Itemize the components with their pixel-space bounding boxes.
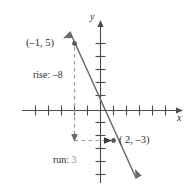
graph-canvas xyxy=(0,0,189,193)
y-axis-label: y xyxy=(90,12,94,22)
rise-annotation-label: rise: xyxy=(33,69,50,80)
rise-annotation-value: –8 xyxy=(53,69,63,80)
run-dashed-arrow xyxy=(75,137,113,144)
rise-dashed-arrow xyxy=(71,47,78,142)
run-annotation-label: run: xyxy=(53,154,69,165)
point-marker-upper xyxy=(72,41,77,46)
x-axis xyxy=(22,107,183,113)
coordinate-plane-figure: y x (–1, 5) ( 2, –3) rise: –8 run: 3 xyxy=(0,0,189,193)
run-annotation-value: 3 xyxy=(72,154,77,165)
point-label-upper: (–1, 5) xyxy=(26,38,54,49)
rise-annotation: rise: –8 xyxy=(33,70,63,80)
point-marker-lower xyxy=(111,138,116,143)
point-label-lower: ( 2, –3) xyxy=(119,135,150,146)
y-axis xyxy=(97,20,103,183)
run-annotation: run: 3 xyxy=(53,155,77,165)
x-axis-label: x xyxy=(177,113,181,123)
